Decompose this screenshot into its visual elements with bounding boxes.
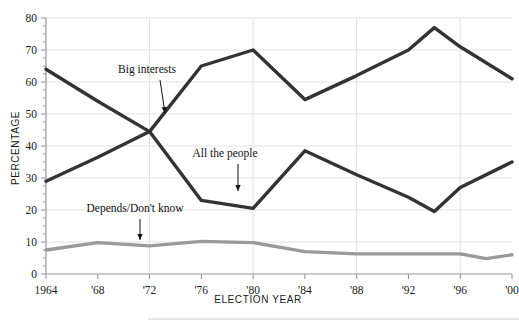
- y-tick-label: 20: [26, 204, 38, 216]
- x-axis-title: ELECTION YEAR: [214, 294, 302, 305]
- x-tick-label: '76: [195, 284, 209, 296]
- y-tick-label: 80: [26, 12, 38, 24]
- y-tick-label: 50: [26, 108, 38, 120]
- chart-background: [0, 0, 519, 324]
- y-tick-label: 30: [26, 172, 38, 184]
- x-tick-label: '88: [350, 284, 364, 296]
- y-tick-label: 60: [26, 76, 38, 88]
- y-tick-label: 10: [26, 236, 38, 248]
- x-tick-label: '00: [505, 284, 519, 296]
- annotation-label: All the people: [192, 147, 257, 160]
- x-tick-label: 1964: [35, 284, 58, 296]
- x-tick-label: '72: [143, 284, 157, 296]
- y-tick-label: 70: [26, 44, 38, 56]
- x-tick-label: '92: [402, 284, 416, 296]
- x-tick-label: '68: [91, 284, 105, 296]
- line-chart: 01020304050607080 1964'68'72'76'80'84'88…: [0, 0, 519, 324]
- y-axis-title: PERCENTAGE: [10, 111, 21, 185]
- y-tick-label: 0: [31, 268, 37, 280]
- chart-container: 01020304050607080 1964'68'72'76'80'84'88…: [0, 0, 519, 324]
- annotation-label: Big interests: [118, 63, 176, 76]
- x-tick-label: '96: [453, 284, 467, 296]
- y-tick-labels: 01020304050607080: [26, 12, 38, 280]
- y-tick-label: 40: [26, 140, 38, 152]
- annotation-label: Depends/Don't know: [87, 202, 185, 215]
